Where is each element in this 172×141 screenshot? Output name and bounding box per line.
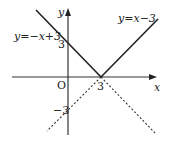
y-axis-label: y: [57, 6, 65, 19]
line2-label: y=x−3: [117, 12, 156, 25]
line-x-minus-3: [101, 19, 158, 77]
x-axis-arrow-icon: [149, 74, 157, 80]
graph: y x O 3 3 −3 y=−x+3 y=x−3: [0, 0, 172, 141]
y-axis-arrow-icon: [65, 8, 71, 16]
tick-y-neg3: −3: [53, 104, 69, 117]
line1-label: y=−x+3: [13, 30, 61, 43]
line-neg-x-plus-3-dashed: [101, 77, 155, 133]
x-axis-label: x: [154, 81, 161, 94]
tick-x-3: 3: [97, 80, 104, 93]
origin-label: O: [57, 79, 66, 92]
